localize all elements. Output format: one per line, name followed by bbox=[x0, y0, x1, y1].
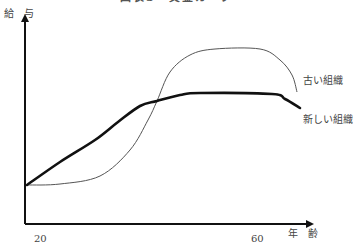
wage-curve-chart: 図表3 賃金カーブ 給 与 年 齢 20 60 古い組織 新しい組織 bbox=[0, 0, 353, 251]
new-organization-curve bbox=[27, 93, 300, 185]
chart-canvas bbox=[0, 0, 353, 251]
x-tick-60: 60 bbox=[251, 234, 264, 244]
old-organization-curve bbox=[27, 48, 297, 185]
legend-new-organization: 新しい組織 bbox=[303, 115, 353, 125]
y-axis-label: 給 与 bbox=[4, 9, 34, 19]
x-tick-20: 20 bbox=[34, 234, 47, 244]
x-axis-label: 年 齢 bbox=[288, 229, 318, 239]
legend-old-organization: 古い組織 bbox=[303, 76, 343, 86]
